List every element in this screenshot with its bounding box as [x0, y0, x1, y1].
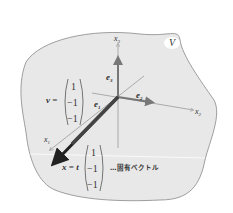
v-vector-label: v = — [46, 95, 57, 105]
x-component-3: −1 — [87, 179, 98, 190]
v-component-3: −1 — [67, 113, 78, 124]
x-vector-label: x = t — [61, 162, 79, 172]
v-component-1: 1 — [71, 81, 76, 92]
x-component-1: 1 — [91, 147, 96, 158]
v-component-2: −1 — [67, 97, 78, 108]
x-component-2: −1 — [87, 163, 98, 174]
eigenvector-diagram: V x3 x2 x1 e3 e2 e1 v = 1 −1 −1 x = t 1 … — [0, 0, 233, 213]
vector-space-region — [21, 32, 217, 200]
eigenvector-annotation: …固有ベクトル — [110, 163, 159, 172]
